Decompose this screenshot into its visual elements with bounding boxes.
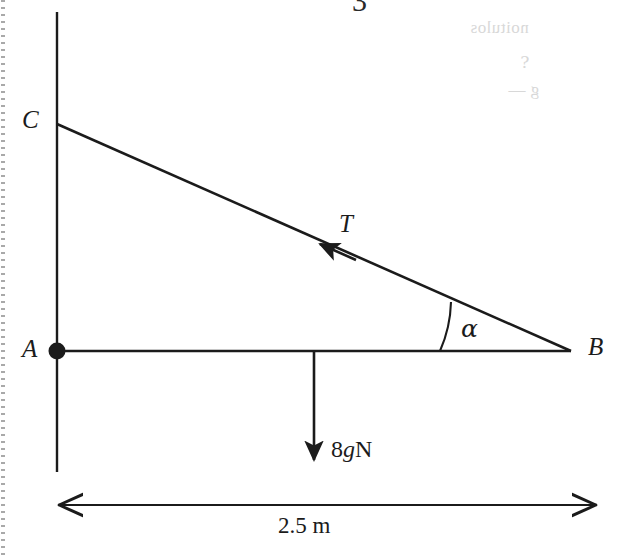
tension-label-T: T	[339, 211, 353, 236]
weight-label: 8gN	[331, 437, 372, 461]
string-line-CB	[57, 124, 571, 351]
weight-unit: N	[355, 436, 372, 462]
mechanics-diagram-figure: 3 noitulos ⸮ g —	[0, 0, 625, 556]
angle-label-alpha: α	[461, 316, 478, 341]
vertex-label-A: A	[22, 336, 37, 361]
weight-gravity-symbol: g	[343, 436, 355, 462]
diagram-canvas	[0, 0, 625, 556]
vertex-label-B: B	[588, 334, 603, 359]
tension-arrow	[320, 244, 356, 260]
weight-magnitude: 8	[331, 436, 343, 462]
dimension-label: 2.5 m	[278, 514, 330, 537]
hinge-dot-A	[49, 343, 66, 360]
vertex-label-C: C	[22, 107, 39, 132]
angle-arc-alpha	[440, 302, 451, 351]
